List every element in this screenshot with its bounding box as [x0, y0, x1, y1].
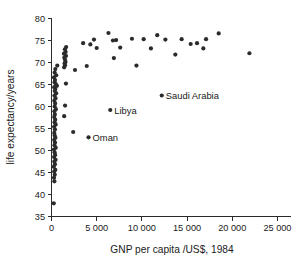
data-point [71, 130, 75, 134]
point-annotations: Saudi ArabiaLibyaOman [93, 90, 220, 143]
data-point [160, 93, 164, 97]
data-point [88, 42, 92, 46]
data-point [155, 33, 159, 37]
data-point [195, 41, 199, 45]
y-axis: 35404550556065707580 [35, 14, 52, 222]
x-tick-label: 0 [49, 223, 54, 233]
data-point [142, 37, 146, 41]
data-point [163, 38, 167, 42]
annotation-label: Libya [114, 105, 137, 116]
y-tick-label: 80 [35, 14, 45, 24]
data-point [217, 31, 221, 35]
y-tick-label: 45 [35, 168, 45, 178]
data-point [86, 135, 90, 139]
data-point [112, 56, 116, 60]
data-point [64, 45, 68, 49]
data-point [204, 37, 208, 41]
y-tick-label: 35 [35, 212, 45, 222]
x-axis-title: GNP per capita /US$, 1984 [110, 244, 234, 255]
scatter-chart: 35404550556065707580 05 00010 00015 0002… [0, 0, 298, 261]
data-point [52, 201, 56, 205]
y-tick-label: 65 [35, 80, 45, 90]
data-point [73, 68, 77, 72]
x-tick-label: 20 000 [218, 223, 246, 233]
annotation-label: Saudi Arabia [166, 90, 220, 101]
x-tick-label: 10 000 [128, 223, 156, 233]
y-tick-label: 40 [35, 190, 45, 200]
data-point [64, 82, 68, 86]
data-point [134, 63, 138, 67]
y-tick-label: 75 [35, 36, 45, 46]
data-point [173, 52, 177, 56]
data-point [247, 51, 251, 55]
data-point [149, 46, 153, 50]
data-point [95, 46, 99, 50]
x-tick-label: 15 000 [173, 223, 201, 233]
x-tick-label: 25 000 [263, 223, 291, 233]
data-point [53, 71, 57, 75]
data-point [114, 38, 118, 42]
data-point [108, 108, 112, 112]
y-tick-label: 70 [35, 58, 45, 68]
y-axis-title: life expectancy/years [5, 69, 16, 164]
x-axis: 05 00010 00015 00020 00025 000 [49, 217, 292, 233]
data-point [55, 63, 59, 67]
data-point [201, 46, 205, 50]
data-point [81, 41, 85, 45]
data-points [52, 31, 252, 205]
data-point [53, 67, 57, 71]
x-tick-label: 5 000 [85, 223, 108, 233]
data-point [92, 38, 96, 42]
data-point [118, 45, 122, 49]
plot-area: 35404550556065707580 05 00010 00015 0002… [0, 0, 298, 261]
y-tick-label: 55 [35, 124, 45, 134]
y-tick-label: 60 [35, 102, 45, 112]
data-point [189, 42, 193, 46]
data-point [62, 114, 66, 118]
data-point [180, 37, 184, 41]
data-point [85, 64, 89, 68]
data-point [52, 131, 56, 135]
data-point [63, 104, 67, 108]
data-point [106, 31, 110, 35]
data-point [130, 37, 134, 41]
y-tick-label: 50 [35, 146, 45, 156]
annotation-label: Oman [93, 132, 119, 143]
